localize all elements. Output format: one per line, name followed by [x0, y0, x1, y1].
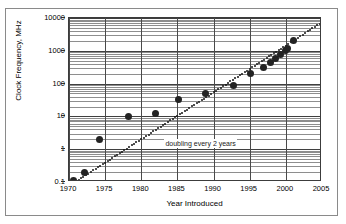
- gridline-minor-y: [69, 20, 320, 21]
- gridline-major-x: [105, 18, 106, 180]
- trend-line-dot: [135, 141, 137, 143]
- x-tick-label: 1980: [132, 184, 149, 193]
- data-point: [247, 70, 254, 77]
- trend-line-dot: [297, 37, 299, 39]
- plot-area: doubling every 2 years: [68, 17, 321, 181]
- trend-line-dot: [225, 84, 227, 86]
- x-axis-tick-labels: 19701975198019851990199520002005: [68, 184, 321, 196]
- trend-annotation: doubling every 2 years: [164, 139, 236, 148]
- data-point: [175, 96, 182, 103]
- trend-line-dot: [299, 35, 301, 37]
- gridline-major-y: [69, 116, 320, 117]
- trend-line-dot: [232, 79, 234, 81]
- y-axis-tick: [61, 115, 65, 116]
- gridline-major-y: [69, 84, 320, 85]
- trend-line-dot: [95, 168, 97, 170]
- gridline-minor-y: [69, 28, 320, 29]
- trend-line-dot: [309, 29, 311, 31]
- trend-line-dot: [203, 98, 205, 100]
- trend-line-dot: [150, 132, 152, 134]
- gridline-minor-y: [69, 31, 320, 32]
- trend-line-dot: [234, 77, 236, 79]
- data-point: [290, 37, 297, 44]
- data-point: [284, 45, 291, 52]
- trend-line-dot: [266, 57, 268, 59]
- gridline-major-x: [69, 18, 70, 180]
- trend-line-dot: [215, 90, 217, 92]
- trend-line-dot: [210, 93, 212, 95]
- trend-line-dot: [75, 180, 77, 181]
- gridline-minor-y: [69, 41, 320, 42]
- gridline-minor-y: [69, 154, 320, 155]
- gridline-minor-y: [69, 151, 320, 152]
- gridline-minor-y: [69, 61, 320, 62]
- trend-line-dot: [148, 134, 150, 136]
- trend-line-dot: [121, 151, 123, 153]
- gridline-minor-y: [69, 121, 320, 122]
- gridline-minor-y: [69, 93, 320, 94]
- gridline-minor-y: [69, 68, 320, 69]
- x-axis-title: Year Introduced: [68, 199, 321, 208]
- trend-line-dot: [145, 135, 147, 137]
- x-tick-label: 2005: [313, 184, 330, 193]
- gridline-minor-y: [69, 126, 320, 127]
- x-tick-label: 2000: [277, 184, 294, 193]
- trend-line-dot: [314, 26, 316, 28]
- gridline-minor-y: [69, 85, 320, 86]
- chart-frame: Clock Frequency, MHz Year Introduced 100…: [5, 8, 338, 216]
- gridline-major-y: [69, 149, 320, 150]
- trend-line-dot: [138, 140, 140, 142]
- x-tick-label: 1970: [60, 184, 77, 193]
- trend-line-dot: [126, 148, 128, 150]
- gridline-minor-y: [69, 107, 320, 108]
- trend-line-dot: [78, 179, 80, 181]
- gridline-minor-y: [69, 152, 320, 153]
- trend-line-dot: [160, 126, 162, 128]
- x-tick-label: 1985: [168, 184, 185, 193]
- trend-line-dot: [172, 118, 174, 120]
- data-point: [81, 169, 88, 176]
- gridline-minor-y: [69, 118, 320, 119]
- gridline-major-x: [141, 18, 142, 180]
- gridline-minor-y: [69, 134, 320, 135]
- gridline-minor-y: [69, 172, 320, 173]
- gridline-minor-y: [69, 25, 320, 26]
- gridline-minor-y: [69, 64, 320, 65]
- trend-line-dot: [319, 23, 321, 25]
- gridline-minor-y: [69, 162, 320, 163]
- trend-line-dot: [198, 101, 200, 103]
- gridline-minor-y: [69, 91, 320, 92]
- data-point: [260, 64, 267, 71]
- trend-line-dot: [220, 87, 222, 89]
- gridline-minor-y: [69, 23, 320, 24]
- trend-line-dot: [254, 65, 256, 67]
- data-point: [96, 136, 103, 143]
- gridline-minor-y: [69, 35, 320, 36]
- data-point: [152, 110, 159, 117]
- gridline-major-x: [214, 18, 215, 180]
- gridline-major-x: [250, 18, 251, 180]
- trend-line-dot: [104, 162, 106, 164]
- x-tick-label: 1975: [96, 184, 113, 193]
- trend-line-dot: [302, 34, 304, 36]
- gridline-minor-y: [69, 101, 320, 102]
- y-axis-tick: [61, 83, 65, 84]
- gridline-major-y: [69, 18, 320, 19]
- gridline-minor-y: [69, 74, 320, 75]
- trend-line-dot: [143, 137, 145, 139]
- trend-line-dot: [181, 112, 183, 114]
- gridline-minor-y: [69, 120, 320, 121]
- y-axis-tick: [61, 50, 65, 51]
- trend-line-dot: [90, 171, 92, 173]
- y-axis-tick: [61, 17, 65, 18]
- trend-line-dot: [155, 129, 157, 131]
- trend-line-dot: [133, 143, 135, 145]
- gridline-minor-y: [69, 58, 320, 59]
- trend-line-dot: [263, 59, 265, 61]
- gridline-minor-y: [69, 89, 320, 90]
- trend-line-dot: [82, 176, 84, 178]
- gridline-minor-y: [69, 97, 320, 98]
- y-axis-tick: [61, 181, 65, 182]
- gridline-minor-y: [69, 129, 320, 130]
- gridline-minor-y: [69, 156, 320, 157]
